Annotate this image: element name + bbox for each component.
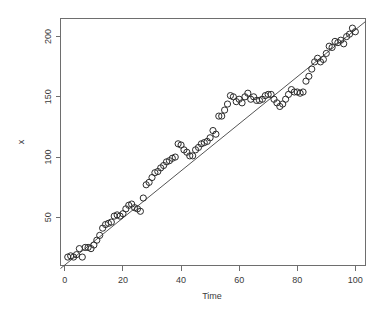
x-axis-title: Time — [202, 291, 222, 301]
y-axis-title: x — [16, 139, 26, 144]
y-tick-label-150: 150 — [44, 89, 54, 104]
x-tick-label-40: 40 — [176, 275, 186, 285]
x-tick-label-0: 0 — [62, 275, 67, 285]
scatter-plot-figure: 020406080100 50100150200 Time x — [0, 0, 385, 315]
x-tick-label-60: 60 — [234, 275, 244, 285]
x-tick-label-100: 100 — [348, 275, 363, 285]
plot-canvas: 020406080100 50100150200 Time x — [0, 0, 385, 315]
y-tick-label-50: 50 — [44, 212, 54, 222]
y-tick-label-100: 100 — [44, 150, 54, 165]
x-tick-label-80: 80 — [292, 275, 302, 285]
x-tick-label-20: 20 — [118, 275, 128, 285]
y-tick-label-200: 200 — [44, 29, 54, 44]
